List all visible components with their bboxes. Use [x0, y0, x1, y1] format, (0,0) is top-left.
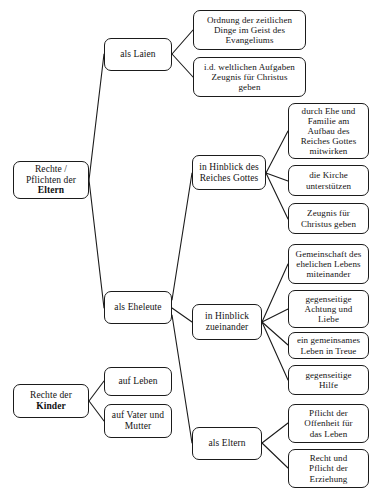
edge-zueinander-to-treue [262, 322, 288, 345]
leaf-ein-gemeinsames-leben-in-treue-label: ein gemeinsames Leben in Treue [291, 335, 366, 355]
edge-root-kinder-to-auf-vater-mutter [89, 401, 104, 421]
leaf-gegenseitige-achtung-und-liebe-label: gegenseitige Achtung und Liebe [291, 294, 366, 324]
leaf-gemeinschaft-des-ehelichen-lebens-label: Gemeinschaft des ehelichen Lebens mitein… [291, 249, 366, 279]
edge-als-laien-to-ordnung [172, 30, 193, 54]
leaf-gegenseitige-hilfe[interactable]: gegenseitige Hilfe [288, 365, 369, 395]
branch-in-hinblick-zueinander[interactable]: in Hinblick zueinander [192, 304, 262, 340]
edge-als-eheleute-to-hinblick-zueinander [172, 308, 192, 322]
branch-als-eltern[interactable]: als Eltern [192, 427, 262, 460]
leaf-durch-ehe-und-familie-aufbau[interactable]: durch Ehe und Familie am Aufbau des Reic… [288, 103, 369, 159]
branch-als-eheleute[interactable]: als Eheleute [104, 291, 172, 324]
edge-root-eltern-to-als-eheleute [89, 180, 104, 308]
root-rechte-der-kinder-line-2: Kinder [36, 401, 66, 411]
edge-reiches-gottes-to-durch-ehe [266, 131, 288, 173]
leaf-die-kirche-unterstuetzen-label: die Kirche unterstützen [291, 170, 366, 190]
edge-als-eltern-to-offenheit [262, 423, 288, 443]
root-rechte-pflichten-eltern[interactable]: Rechte /Pflichten derEltern [13, 161, 89, 199]
edge-als-laien-to-weltliche-aufgaben [172, 54, 193, 77]
root-rechte-der-kinder-label: Rechte derKinder [16, 390, 86, 411]
edge-zueinander-to-hilfe [262, 322, 288, 380]
root-rechte-der-kinder[interactable]: Rechte derKinder [13, 384, 89, 418]
edge-zueinander-to-gemeinschaft [262, 264, 288, 322]
edge-als-eltern-to-erziehung [262, 443, 288, 468]
branch-in-hinblick-des-reiches-gottes-label: in Hinblick des Reiches Gottes [195, 162, 263, 183]
edge-root-kinder-to-auf-leben [89, 381, 104, 401]
leaf-die-kirche-unterstuetzen[interactable]: die Kirche unterstützen [288, 165, 369, 196]
edge-zueinander-to-achtung [262, 309, 288, 322]
edge-reiches-gottes-to-kirche [266, 173, 288, 181]
leaf-zeugnis-fuer-christus-geben[interactable]: Zeugnis für Christus geben [288, 203, 369, 234]
leaf-zeugnis-fuer-christus-geben-label: Zeugnis für Christus geben [291, 208, 366, 228]
root-rechte-der-kinder-line-1: Rechte der [30, 390, 72, 400]
leaf-pflicht-der-offenheit-fuer-das-leben-label: Pflicht der Offenheit für das Leben [291, 408, 366, 438]
branch-als-eltern-label: als Eltern [195, 438, 259, 449]
edge-root-eltern-to-als-laien [89, 54, 104, 180]
leaf-ordnung-der-zeitlichen-dinge[interactable]: Ordnung der zeitlichen Dinge im Geist de… [193, 10, 306, 50]
branch-in-hinblick-des-reiches-gottes[interactable]: in Hinblick des Reiches Gottes [192, 155, 266, 190]
branch-als-laien[interactable]: als Laien [104, 38, 172, 71]
leaf-ein-gemeinsames-leben-in-treue[interactable]: ein gemeinsames Leben in Treue [288, 332, 369, 359]
leaf-auf-leben[interactable]: auf Leben [104, 367, 172, 396]
edge-als-eheleute-to-hinblick-reiches-gottes [172, 173, 192, 300]
edge-reiches-gottes-to-zeugnis [266, 173, 288, 219]
branch-als-eheleute-label: als Eheleute [107, 302, 169, 313]
leaf-gemeinschaft-des-ehelichen-lebens[interactable]: Gemeinschaft des ehelichen Lebens mitein… [288, 244, 369, 284]
leaf-gegenseitige-achtung-und-liebe[interactable]: gegenseitige Achtung und Liebe [288, 290, 369, 328]
root-rechte-pflichten-eltern-line-3: Eltern [38, 185, 64, 195]
leaf-id-weltlichen-aufgaben-zeugnis-label: i.d. weltlichen Aufgaben Zeugnis für Chr… [196, 62, 303, 92]
leaf-ordnung-der-zeitlichen-dinge-label: Ordnung der zeitlichen Dinge im Geist de… [196, 15, 303, 45]
leaf-gegenseitige-hilfe-label: gegenseitige Hilfe [291, 370, 366, 390]
leaf-auf-leben-label: auf Leben [107, 376, 169, 387]
root-rechte-pflichten-eltern-line-1: Rechte / [35, 164, 67, 174]
leaf-pflicht-der-offenheit-fuer-das-leben[interactable]: Pflicht der Offenheit für das Leben [288, 404, 369, 443]
mind-map-diagram: Rechte /Pflichten derElternals LaienOrdn… [0, 0, 376, 501]
leaf-auf-vater-und-mutter-label: auf Vater und Mutter [107, 410, 169, 431]
leaf-durch-ehe-und-familie-aufbau-label: durch Ehe und Familie am Aufbau des Reic… [291, 106, 366, 156]
leaf-id-weltlichen-aufgaben-zeugnis[interactable]: i.d. weltlichen Aufgaben Zeugnis für Chr… [193, 57, 306, 97]
branch-in-hinblick-zueinander-label: in Hinblick zueinander [195, 311, 259, 332]
branch-als-laien-label: als Laien [107, 49, 169, 60]
leaf-recht-und-pflicht-der-erziehung-label: Recht und Pflicht der Erziehung [291, 453, 366, 483]
edge-als-eheleute-to-als-eltern [172, 315, 192, 443]
root-rechte-pflichten-eltern-line-2: Pflichten der [26, 175, 76, 185]
root-rechte-pflichten-eltern-label: Rechte /Pflichten derEltern [16, 164, 86, 196]
leaf-auf-vater-und-mutter[interactable]: auf Vater und Mutter [104, 404, 172, 438]
leaf-recht-und-pflicht-der-erziehung[interactable]: Recht und Pflicht der Erziehung [288, 449, 369, 488]
